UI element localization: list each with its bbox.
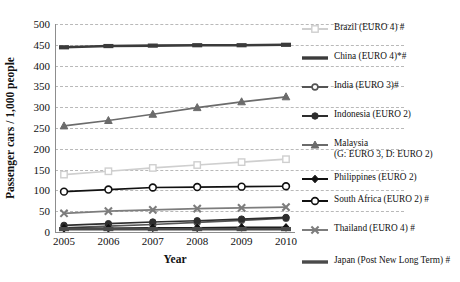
legend-item[interactable]: Thailand (EURO 4) # xyxy=(300,223,415,236)
data-point-marker xyxy=(192,227,202,231)
data-point-marker xyxy=(312,26,318,32)
data-point-marker xyxy=(283,214,289,220)
legend-key-circle-filled-icon xyxy=(300,110,330,122)
series-line xyxy=(64,218,286,228)
data-point-marker xyxy=(59,227,69,231)
series-5 xyxy=(60,93,290,129)
y-tick-label: 200 xyxy=(34,143,51,154)
data-point-marker xyxy=(194,184,201,191)
legend-item[interactable]: India (EURO 3)# xyxy=(300,80,399,93)
data-point-marker xyxy=(103,44,113,48)
legend-item[interactable]: South Africa (EURO 2) # xyxy=(300,194,429,207)
x-tick-label: 2010 xyxy=(275,236,297,247)
data-point-marker xyxy=(312,113,318,119)
series-line xyxy=(64,186,286,191)
y-tick-label: 450 xyxy=(34,39,51,50)
data-point-marker xyxy=(105,168,111,174)
data-point-marker xyxy=(148,44,158,48)
data-point-marker xyxy=(105,186,112,193)
series-line xyxy=(64,159,286,174)
y-tick-label: 0 xyxy=(45,227,51,238)
series-line xyxy=(64,45,286,47)
data-point-marker xyxy=(237,43,247,47)
data-point-marker xyxy=(61,188,68,195)
data-point-marker xyxy=(103,227,113,231)
series-line xyxy=(64,97,286,126)
data-point-marker xyxy=(61,171,67,177)
legend-item[interactable]: Philippines (EURO 2) xyxy=(300,172,417,185)
x-tick-label: 2008 xyxy=(186,236,208,247)
legend-key-circle-small-icon xyxy=(300,81,330,93)
data-point-marker xyxy=(194,218,200,224)
data-point-marker xyxy=(312,175,319,183)
x-tick-label: 2009 xyxy=(231,236,253,247)
data-point-marker xyxy=(194,162,200,168)
series-line xyxy=(64,207,286,213)
series-2 xyxy=(59,43,291,50)
data-point-marker xyxy=(59,45,69,49)
x-tick-label: 2006 xyxy=(97,236,119,247)
data-point-marker xyxy=(238,183,245,190)
x-axis-title: Year xyxy=(55,253,295,265)
data-point-marker xyxy=(238,159,244,165)
legend-item[interactable]: Brazil (EURO 4) # xyxy=(300,22,405,35)
data-point-marker xyxy=(283,156,289,162)
data-point-marker xyxy=(281,227,291,231)
legend-label: Brazil (EURO 4) # xyxy=(334,22,405,33)
legend-key-x-cross-icon xyxy=(300,224,330,236)
legend-item[interactable]: Indonesia (EURO 2) xyxy=(300,109,411,122)
chart-figure: Passenger cars / 1,000 people 0501001502… xyxy=(0,0,460,282)
data-point-marker xyxy=(312,84,318,90)
legend-label: Philippines (EURO 2) xyxy=(334,172,417,183)
series-1 xyxy=(61,156,289,178)
y-axis-title: Passenger cars / 1,000 people xyxy=(2,24,18,232)
legend-label: Indonesia (EURO 2) xyxy=(334,109,411,120)
series-7 xyxy=(61,183,290,195)
y-tick-label: 150 xyxy=(34,164,51,175)
data-point-marker xyxy=(281,43,291,47)
legend-label: China (EURO 4)*# xyxy=(334,51,406,62)
legend-label: Japan (Post New Long Term) # xyxy=(334,255,450,266)
y-tick-label: 300 xyxy=(34,102,51,113)
data-point-marker xyxy=(148,227,158,231)
data-point-marker xyxy=(150,165,156,171)
y-tick-label: 350 xyxy=(34,81,51,92)
legend-key-square-open-icon xyxy=(300,23,330,35)
legend-key-diamond-filled-icon xyxy=(300,173,330,185)
legend-label: South Africa (EURO 2) # xyxy=(334,194,429,205)
series-8 xyxy=(60,203,289,216)
y-tick-label: 50 xyxy=(39,206,50,217)
legend-label: Malaysia(G: EURO 3, D: EURO 2) xyxy=(334,138,433,160)
legend-label: India (EURO 3)# xyxy=(334,80,399,91)
data-point-marker xyxy=(192,43,202,47)
legend-key-rect-thick-icon xyxy=(300,256,330,268)
x-tick-label: 2007 xyxy=(142,236,164,247)
y-tick-label: 500 xyxy=(34,19,51,30)
legend-key-circle-open-icon xyxy=(300,195,330,207)
legend-item[interactable]: Malaysia(G: EURO 3, D: EURO 2) xyxy=(300,138,433,160)
data-point-marker xyxy=(312,198,319,205)
legend-label: Thailand (EURO 4) # xyxy=(334,223,415,234)
legend-item[interactable]: China (EURO 4)*# xyxy=(300,51,406,64)
y-tick-label: 400 xyxy=(34,60,51,71)
legend-key-triangle-filled-icon xyxy=(300,139,330,151)
data-point-marker xyxy=(237,227,247,231)
y-tick-label: 250 xyxy=(34,123,51,134)
data-point-marker xyxy=(238,216,244,222)
x-axis-line xyxy=(55,232,295,233)
data-series-layer xyxy=(55,24,295,232)
legend-label-line2: (G: EURO 3, D: EURO 2) xyxy=(334,149,433,160)
legend-item[interactable]: Japan (Post New Long Term) # xyxy=(300,255,450,268)
x-tick-label: 2005 xyxy=(53,236,75,247)
y-tick-label: 100 xyxy=(34,185,51,196)
data-point-marker xyxy=(149,184,156,191)
data-point-marker xyxy=(283,183,290,190)
legend-key-rect-thick-icon xyxy=(300,52,330,64)
